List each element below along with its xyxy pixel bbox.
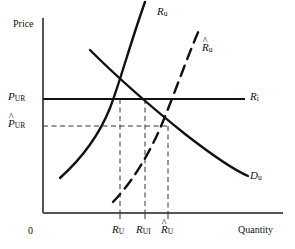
circumflex-icon: ^ [162, 218, 167, 228]
curve-label-r-u-hat: ^Ru [202, 42, 213, 54]
x-axis-label: Quantity [238, 225, 273, 235]
x-r-u-base: R [112, 223, 119, 235]
p-ur-subscript: UR [15, 94, 26, 103]
x-r-u-subscript: U [119, 227, 125, 236]
r-u-base: R [157, 5, 164, 17]
d-u-subscript: u [258, 173, 262, 182]
d-u-base: D [250, 169, 258, 181]
economics-supply-demand-figure: Price Quantity 0 PUR ^PUR RU RUI ^RU Ru … [0, 0, 295, 249]
r-i-subscript: i [257, 94, 259, 103]
r-i-base: R [250, 90, 257, 102]
x-tick-label-r-u-hat: ^RU [161, 224, 173, 236]
circumflex-icon: ^ [203, 36, 208, 46]
y-tick-label-p-ur-hat: ^PUR [8, 118, 26, 130]
chart-canvas [0, 0, 295, 249]
circumflex-icon: ^ [9, 112, 14, 122]
p-ur-hat-subscript: UR [15, 121, 26, 130]
curve-d-u [90, 50, 248, 176]
y-axis-label: Price [13, 19, 34, 29]
curve-r-u-hat [113, 28, 200, 202]
y-tick-label-p-ur: PUR [8, 91, 26, 103]
curve-label-r-u: Ru [157, 6, 168, 18]
r-u-hat-subscript: u [209, 45, 213, 54]
x-r-ui-subscript: UI [143, 227, 151, 236]
curve-label-d-u: Du [250, 170, 262, 182]
x-r-ui-base: R [136, 223, 143, 235]
origin-label: 0 [28, 226, 33, 236]
x-tick-label-r-ui: RUI [136, 224, 151, 236]
p-ur-base: P [8, 90, 15, 102]
r-u-subscript: u [164, 9, 168, 18]
x-r-u-hat-subscript: U [168, 227, 174, 236]
x-tick-label-r-u: RU [112, 224, 124, 236]
curve-label-r-i: Ri [250, 91, 259, 103]
